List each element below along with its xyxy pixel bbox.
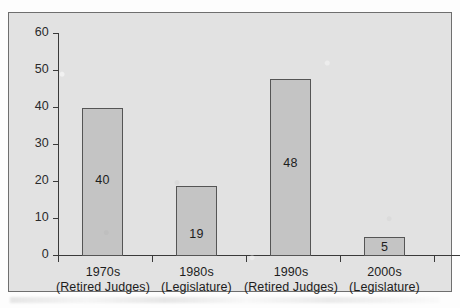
y-axis-tick-label-30: 30: [35, 136, 49, 150]
x-axis-label-1970s-decade: 1970s: [86, 265, 121, 279]
scan-artifact: [10, 297, 440, 303]
y-axis-tick-label-40: 40: [35, 99, 49, 113]
y-axis-tick-label-20: 20: [35, 173, 49, 187]
y-axis-tick-20: 20: [53, 181, 59, 182]
y-axis-tick-30: 30: [53, 144, 59, 145]
chart-frame: 60 50 40 30 20 10 0: [8, 12, 452, 292]
bar-1990s[interactable]: 48: [270, 79, 311, 256]
y-axis-tick-50: 50: [53, 70, 59, 71]
x-axis-label-2000s: 2000s (Legislature): [313, 265, 456, 295]
bar-value-1970s: 40: [83, 173, 122, 187]
x-axis-tick-0: [58, 256, 59, 262]
x-axis-label-2000s-source: (Legislature): [313, 280, 456, 295]
x-axis-tick-1: [152, 256, 153, 262]
bar-value-2000s: 5: [365, 240, 404, 254]
plot-area: 60 50 40 30 20 10 0: [9, 13, 451, 291]
bar-1980s[interactable]: 19: [176, 186, 217, 256]
bar-1970s[interactable]: 40: [82, 108, 123, 256]
x-axis-label-1990s-decade: 1990s: [274, 265, 309, 279]
x-axis-label-1980s-decade: 1980s: [179, 265, 214, 279]
y-axis-tick-label-10: 10: [35, 210, 49, 224]
x-axis-tick-3: [340, 256, 341, 262]
x-axis-label-2000s-decade: 2000s: [367, 265, 402, 279]
y-axis-tick-label-50: 50: [35, 62, 49, 76]
y-axis-tick-40: 40: [53, 107, 59, 108]
y-axis-tick-label-60: 60: [35, 25, 49, 39]
bar-value-1980s: 19: [177, 227, 216, 241]
scanned-page: 60 50 40 30 20 10 0: [0, 0, 460, 308]
y-axis-tick-10: 10: [53, 218, 59, 219]
y-axis-tick-label-0: 0: [42, 247, 49, 261]
y-axis-tick-60: 60: [53, 33, 59, 34]
bar-value-1990s: 48: [271, 156, 310, 170]
x-axis-tick-4: [434, 256, 435, 262]
bar-2000s[interactable]: 5: [364, 237, 405, 256]
x-axis-tick-2: [246, 256, 247, 262]
